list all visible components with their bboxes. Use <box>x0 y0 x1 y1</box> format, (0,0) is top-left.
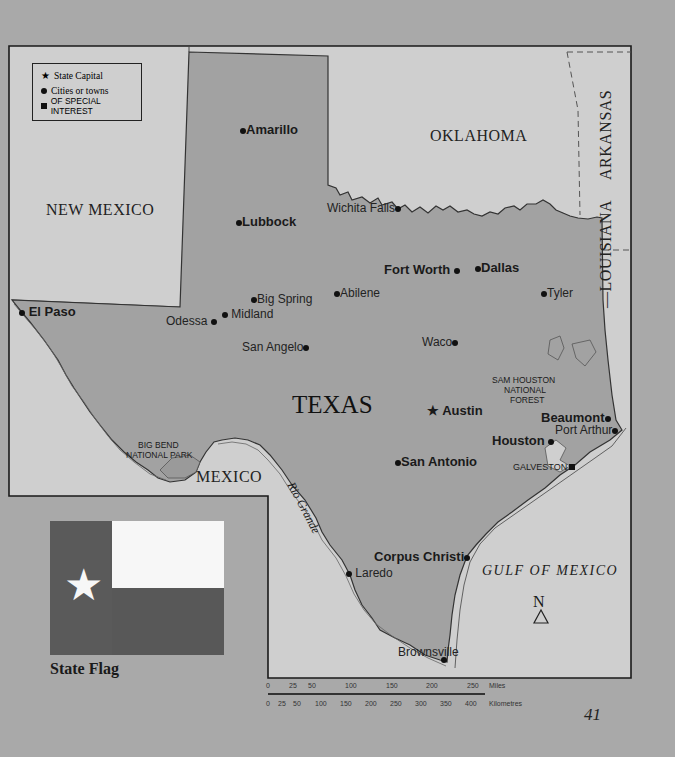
label-oklahoma: OKLAHOMA <box>430 128 527 144</box>
city-brownsville: Brownsville <box>398 646 459 658</box>
label-louisiana: —LOUISIANA <box>598 200 614 308</box>
legend-label: State Capital <box>54 71 103 81</box>
square-icon <box>569 464 575 470</box>
city-odessa: Odessa <box>166 315 217 327</box>
label-sam-houston-2: NATIONAL <box>504 386 546 395</box>
legend-row-special: OF SPECIAL INTEREST <box>41 98 141 113</box>
legend-row-capital: ★ State Capital <box>41 68 141 83</box>
city-san-antonio: San Antonio <box>395 455 477 468</box>
brownsville-dot <box>441 657 447 663</box>
scale-km-tick: 400 <box>465 700 477 707</box>
label-sam-houston-1: SAM HOUSTON <box>492 376 555 385</box>
label-new-mexico: NEW MEXICO <box>46 202 154 218</box>
page-number: 41 <box>584 705 601 725</box>
scale-mile-tick: 150 <box>386 682 398 689</box>
city-amarillo: Amarillo <box>240 123 298 136</box>
label-texas: TEXAS <box>292 392 373 417</box>
scale-km-tick: 250 <box>390 700 402 707</box>
scale-mile-tick: 250 <box>467 682 479 689</box>
city-tyler: Tyler <box>541 287 573 299</box>
city-san-angelo: San Angelo <box>242 341 309 353</box>
city-waco: Waco <box>422 336 458 348</box>
state-flag: ★ <box>50 521 224 655</box>
city-dallas: Dallas <box>475 261 519 274</box>
city-fort-worth: Fort Worth <box>384 263 460 276</box>
label-mexico: MEXICO <box>196 469 262 485</box>
legend-label: OF SPECIAL INTEREST <box>51 96 141 116</box>
north-arrow-label: N <box>533 594 545 610</box>
scale-miles-label: Miles <box>489 682 505 689</box>
city-midland: Midland <box>222 308 273 320</box>
scale-bar: 0 25 50 100 150 200 250 Miles 0 25 50 10… <box>265 681 525 711</box>
label-arkansas: ARKANSAS <box>598 90 614 180</box>
scale-km-tick: 200 <box>365 700 377 707</box>
scale-mile-tick: 0 <box>266 682 270 689</box>
city-port-arthur: Port Arthur <box>555 424 618 436</box>
scale-km-tick: 300 <box>415 700 427 707</box>
city-corpus-christi: Corpus Christi <box>374 550 470 563</box>
scale-mile-tick: 100 <box>345 682 357 689</box>
flag-red-stripe <box>112 588 224 655</box>
scale-km-tick: 350 <box>440 700 452 707</box>
city-lubbock: Lubbock <box>236 215 296 228</box>
circle-icon <box>41 88 47 94</box>
map-legend: ★ State Capital Cities or towns OF SPECI… <box>32 63 142 121</box>
city-big-spring: Big Spring <box>251 293 312 305</box>
scale-km-tick: 150 <box>340 700 352 707</box>
scale-line <box>268 693 485 695</box>
city-houston: Houston <box>492 434 554 447</box>
city-austin-capital: ★ Austin <box>427 404 483 417</box>
label-sam-houston-3: FOREST <box>510 396 544 405</box>
scale-mile-tick: 50 <box>308 682 316 689</box>
scale-km-label: Kilometres <box>489 700 522 707</box>
star-icon: ★ <box>427 403 439 418</box>
label-big-bend: BIG BEND <box>138 441 179 450</box>
label-big-bend-2: NATIONAL PARK <box>126 451 192 460</box>
city-wichita-falls: Wichita Falls <box>327 202 401 214</box>
city-laredo: Laredo <box>346 567 393 579</box>
label-gulf-of-mexico: GULF OF MEXICO <box>482 564 618 578</box>
scale-mile-tick: 25 <box>289 682 297 689</box>
square-icon <box>41 103 47 109</box>
scale-mile-tick: 200 <box>426 682 438 689</box>
scale-km-tick: 25 <box>278 700 286 707</box>
scale-km-tick: 50 <box>293 700 301 707</box>
flag-caption: State Flag <box>50 660 119 678</box>
city-el-paso: El Paso <box>19 305 76 318</box>
label-galveston: GALVESTON <box>513 463 575 472</box>
scale-km-tick: 0 <box>266 700 270 707</box>
city-abilene: Abilene <box>334 287 380 299</box>
scale-km-tick: 100 <box>315 700 327 707</box>
star-icon: ★ <box>41 70 50 81</box>
legend-label: Cities or towns <box>51 86 109 96</box>
flag-star-icon: ★ <box>64 563 103 607</box>
flag-white-stripe <box>112 521 224 588</box>
